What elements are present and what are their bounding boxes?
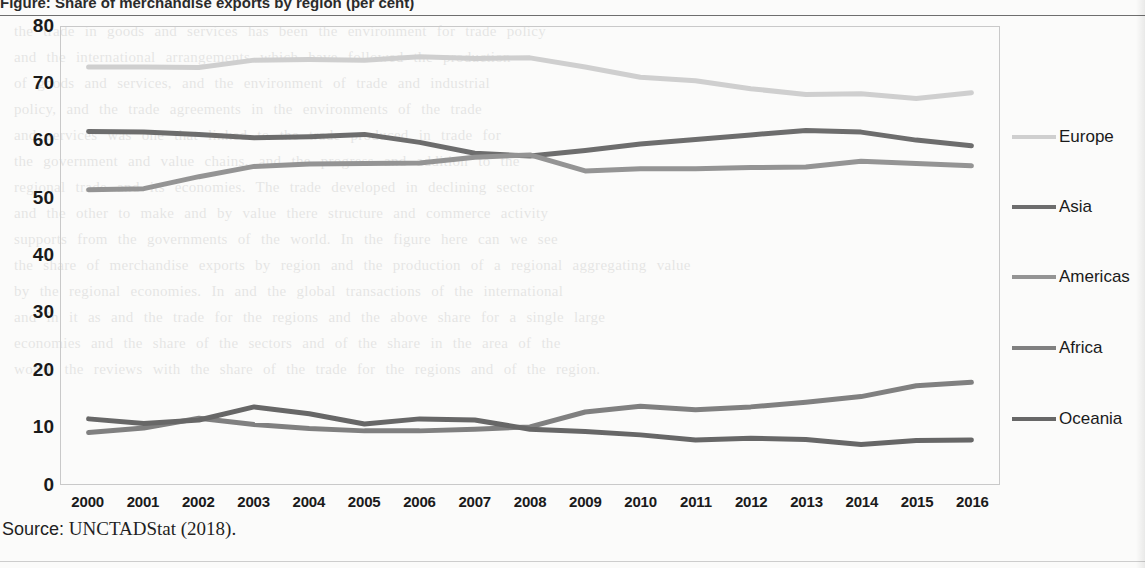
x-tick-2009: 2009 [558, 493, 613, 519]
x-tick-2005: 2005 [336, 493, 391, 519]
legend-item-africa[interactable]: Africa [1012, 339, 1102, 357]
legend-swatch-oceania [1012, 417, 1056, 421]
x-tick-2007: 2007 [447, 493, 502, 519]
x-axis-labels: 2000200120022003200420052006200720082009… [60, 493, 1000, 519]
legend-swatch-asia [1012, 205, 1056, 209]
legend-swatch-africa [1012, 346, 1056, 350]
source-note: Source: UNCTADStat (2018). [2, 518, 236, 540]
line-chart-svg [61, 27, 999, 484]
y-tick-50: 50 [2, 187, 54, 209]
x-tick-2011: 2011 [668, 493, 723, 519]
x-tick-2000: 2000 [60, 493, 115, 519]
caption-divider [0, 15, 1145, 16]
x-tick-2003: 2003 [226, 493, 281, 519]
series-line-americas [89, 155, 972, 190]
legend-label-africa: Africa [1056, 338, 1102, 358]
y-tick-70: 70 [2, 72, 54, 94]
x-tick-2016: 2016 [945, 493, 1000, 519]
legend-item-europe[interactable]: Europe [1012, 128, 1114, 146]
x-tick-2001: 2001 [115, 493, 170, 519]
x-tick-2004: 2004 [281, 493, 336, 519]
y-tick-80: 80 [2, 15, 54, 37]
x-tick-2012: 2012 [724, 493, 779, 519]
legend-swatch-americas [1012, 275, 1056, 279]
legend-item-americas[interactable]: Americas [1012, 268, 1130, 286]
chart-page: Figure: Share of merchandise exports by … [0, 0, 1145, 568]
legend-label-europe: Europe [1056, 127, 1114, 147]
y-tick-30: 30 [2, 301, 54, 323]
y-tick-60: 60 [2, 129, 54, 151]
x-tick-2006: 2006 [392, 493, 447, 519]
source-text: UNCTADStat (2018). [69, 518, 236, 539]
y-tick-10: 10 [2, 416, 54, 438]
legend-label-americas: Americas [1056, 267, 1130, 287]
bottom-divider [0, 561, 1145, 562]
legend-swatch-europe [1012, 135, 1056, 139]
legend-label-asia: Asia [1056, 197, 1092, 217]
source-label: Source: [2, 519, 64, 539]
x-tick-2008: 2008 [502, 493, 557, 519]
x-tick-2013: 2013 [779, 493, 834, 519]
series-line-asia [89, 130, 972, 156]
x-tick-2002: 2002 [171, 493, 226, 519]
x-tick-2014: 2014 [834, 493, 889, 519]
series-line-africa [89, 382, 972, 432]
y-tick-0: 0 [2, 474, 54, 496]
chart-legend: EuropeAsiaAmericasAfricaOceania [1012, 128, 1144, 428]
legend-item-oceania[interactable]: Oceania [1012, 410, 1122, 428]
legend-item-asia[interactable]: Asia [1012, 198, 1092, 216]
y-axis-labels: 80 70 60 50 40 30 20 10 0 [0, 0, 54, 511]
y-tick-40: 40 [2, 244, 54, 266]
series-line-europe [89, 57, 972, 99]
y-tick-20: 20 [2, 359, 54, 381]
legend-label-oceania: Oceania [1056, 409, 1122, 429]
x-tick-2015: 2015 [889, 493, 944, 519]
figure-caption-cropped: Figure: Share of merchandise exports by … [0, 0, 740, 14]
x-tick-2010: 2010 [613, 493, 668, 519]
plot-area [60, 26, 1000, 485]
